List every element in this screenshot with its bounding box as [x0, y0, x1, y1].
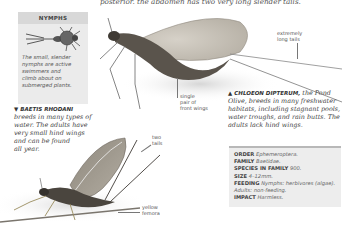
label-line: femora: [142, 210, 160, 216]
species-name: CHLOEON DIPTERUM,: [234, 90, 300, 96]
info-value: Harmless.: [257, 194, 283, 200]
species-text-line: water. The adults have: [14, 121, 104, 129]
species-text-line: breeds in many types of: [14, 113, 104, 121]
info-key: SPECIES IN FAMILY: [234, 165, 288, 171]
info-key: FAMILY: [234, 158, 254, 164]
info-value: Adults: non-feeding.: [234, 187, 287, 193]
info-row-order: ORDER Ephemeroptera.: [234, 151, 336, 158]
info-key: SIZE: [234, 173, 247, 179]
species-text-line: Olive, breeds in many freshwater: [228, 97, 342, 105]
nymph-box-title: NYMPHS: [18, 12, 88, 24]
label-single-pair-front-wings: single pair of front wings: [180, 93, 208, 111]
label-line: front wings: [180, 105, 208, 111]
label-line: long tails: [277, 36, 302, 42]
label-yellow-femora: yellow femora: [142, 204, 160, 216]
label-two-tails: two tails: [152, 134, 162, 146]
chloeon-dipterum-description: ▲ CHLOEON DIPTERUM, the Pond Olive, bree…: [228, 89, 342, 129]
species-text-line: adults lack hind wings.: [228, 121, 342, 129]
leader-line: [118, 212, 140, 213]
info-value: Nymphs: herbivores (algae).: [261, 180, 335, 186]
nymph-caption-line: climb about on: [22, 75, 86, 82]
info-key: ORDER: [234, 151, 254, 157]
nymph-caption: The small, slender nymphs are active swi…: [22, 54, 86, 89]
info-row-size: SIZE 4–12mm.: [234, 173, 336, 180]
mayfly-nymph-illustration: [22, 26, 84, 52]
info-key: FEEDING: [234, 180, 259, 186]
species-name: BAETIS RHODANI: [20, 106, 73, 112]
info-row-species-in-family: SPECIES IN FAMILY 900.: [234, 165, 336, 172]
info-key: IMPACT: [234, 194, 256, 200]
info-value: Ephemeroptera.: [256, 151, 298, 157]
nymph-caption-line: nymphs are active: [22, 61, 86, 68]
info-value: 900.: [290, 165, 302, 171]
species-text-line: habitats, including stagnant pools,: [228, 105, 342, 113]
leader-line: [177, 78, 178, 98]
info-value: 4–12mm.: [249, 173, 273, 179]
info-row-family: FAMILY Baetidae.: [234, 158, 336, 165]
label-extremely-long-tails: extremely long tails: [277, 30, 302, 42]
label-line: tails: [152, 140, 162, 146]
species-text-line: the Pond: [300, 89, 331, 97]
leader-line: [297, 43, 298, 59]
top-body-text: posterior. the abdomen has two very long…: [100, 0, 342, 6]
nymph-caption-line: The small, slender: [22, 54, 86, 61]
info-row-feeding: FEEDING Nymphs: herbivores (algae).: [234, 180, 336, 187]
species-text-line: water troughs, and rain butts. The: [228, 113, 342, 121]
species-marker: ▲: [228, 90, 232, 96]
info-row-impact: IMPACT Harmless.: [234, 194, 336, 201]
nymph-caption-line: swimmers and: [22, 68, 86, 75]
nymph-info-box: NYMPHS The small, slender nymphs are act…: [18, 12, 88, 104]
info-row-feeding-adults: Adults: non-feeding.: [234, 187, 336, 194]
info-value: Baetidae.: [256, 158, 281, 164]
taxonomy-info-box: ORDER Ephemeroptera. FAMILY Baetidae. SP…: [229, 146, 341, 207]
nymph-caption-line: submerged plants.: [22, 82, 86, 89]
species-marker: ▼: [14, 106, 18, 112]
